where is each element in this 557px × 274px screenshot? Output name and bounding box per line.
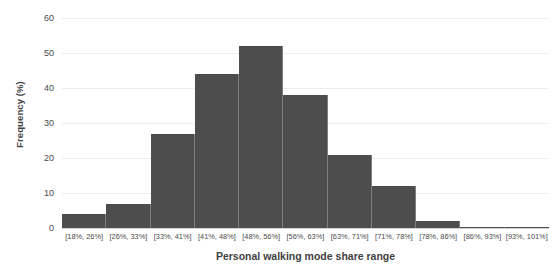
- x-axis-tick-label: [86%, 93%]: [460, 230, 504, 244]
- bar-slot: [372, 18, 416, 228]
- histogram-bar[interactable]: [62, 214, 106, 228]
- histogram-bar[interactable]: [283, 95, 327, 228]
- y-axis-tick-label: 60: [44, 13, 54, 23]
- x-axis-tick-label: [18%, 26%]: [62, 230, 106, 244]
- bar-slot: [505, 18, 549, 228]
- bar-slot: [195, 18, 239, 228]
- plot-area: [62, 18, 549, 228]
- y-axis-tick-label: 40: [44, 83, 54, 93]
- y-axis-tick-labels: 0102030405060: [30, 0, 58, 232]
- x-axis-tick-label: [26%, 33%]: [106, 230, 150, 244]
- y-axis-title-text: Frequency (%): [14, 81, 25, 148]
- bar-slot: [416, 18, 460, 228]
- histogram-bar[interactable]: [106, 204, 150, 229]
- histogram-bar[interactable]: [328, 155, 372, 229]
- histogram-bar[interactable]: [416, 221, 460, 228]
- histogram-bar[interactable]: [195, 74, 239, 228]
- x-axis-tick-label: [63%, 71%]: [328, 230, 372, 244]
- x-axis-tick-label: [33%, 41%]: [151, 230, 195, 244]
- y-axis-tick-label: 0: [49, 223, 54, 233]
- x-axis-tick-labels: [18%, 26%][26%, 33%][33%, 41%][41%, 48%]…: [62, 230, 549, 244]
- x-axis-baseline: [62, 228, 549, 229]
- bar-slot: [460, 18, 504, 228]
- x-axis-tick-label: [93%, 101%]: [505, 230, 549, 244]
- bar-slot: [106, 18, 150, 228]
- histogram-bar[interactable]: [239, 46, 283, 228]
- y-axis-tick-label: 30: [44, 118, 54, 128]
- bar-slot: [239, 18, 283, 228]
- x-axis-tick-label: [56%, 63%]: [283, 230, 327, 244]
- y-axis-tick-label: 50: [44, 48, 54, 58]
- x-axis-tick-label: [41%, 48%]: [195, 230, 239, 244]
- x-axis-title: Personal walking mode share range: [62, 250, 549, 262]
- bar-slot: [328, 18, 372, 228]
- histogram-bar[interactable]: [151, 134, 195, 229]
- bar-slot: [151, 18, 195, 228]
- x-axis-tick-label: [48%, 56%]: [239, 230, 283, 244]
- histogram-bar[interactable]: [372, 186, 416, 228]
- x-axis-tick-label: [71%, 78%]: [372, 230, 416, 244]
- y-axis-title: Frequency (%): [8, 0, 30, 228]
- y-axis-tick-label: 20: [44, 153, 54, 163]
- bar-series: [62, 18, 549, 228]
- y-axis-tick-label: 10: [44, 188, 54, 198]
- bar-slot: [62, 18, 106, 228]
- bar-slot: [283, 18, 327, 228]
- x-axis-tick-label: [78%, 86%]: [416, 230, 460, 244]
- histogram-figure: Frequency (%) 0102030405060 [18%, 26%][2…: [0, 0, 557, 274]
